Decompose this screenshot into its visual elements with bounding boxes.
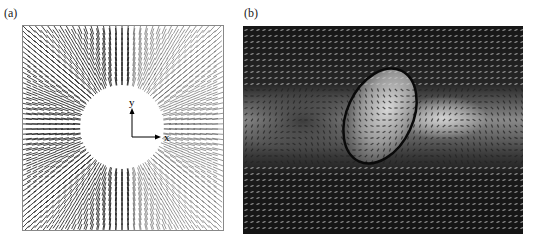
panel-b-vector-field (243, 26, 523, 234)
panel-a-vector-field: y x (22, 25, 224, 231)
circular-hole (80, 85, 164, 169)
panel-a-label: (a) (4, 6, 17, 21)
y-axis-label: y (129, 96, 135, 108)
radial-field-plot: y x (23, 26, 223, 230)
panel-b-label: (b) (244, 6, 258, 21)
x-axis-label: x (164, 131, 170, 143)
grayscale-field-plot (243, 26, 523, 234)
